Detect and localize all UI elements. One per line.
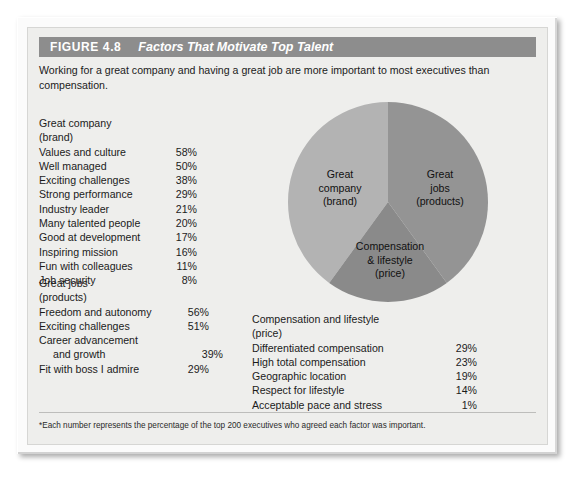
figure-panel: FIGURE 4.8 Factors That Motivate Top Tal… <box>27 27 548 445</box>
item-value: 20% <box>167 216 197 230</box>
list-item: Acceptable pace and stress1% <box>252 398 542 412</box>
item-value: 51% <box>179 319 209 333</box>
figure-footnote: *Each number represents the percentage o… <box>39 420 519 431</box>
item-label: Well managed <box>39 159 167 173</box>
item-label: Freedom and autonomy <box>39 305 179 319</box>
item-label: Many talented people <box>39 216 167 230</box>
item-label: Good at development <box>39 230 167 244</box>
item-value: 50% <box>167 159 197 173</box>
list-item: Geographic location19% <box>252 369 542 383</box>
item-value: 17% <box>167 230 197 244</box>
list-item: Exciting challenges51% <box>39 319 244 333</box>
figure-number: FIGURE 4.8 <box>50 40 121 54</box>
pie-label-line: Compensation <box>338 240 442 254</box>
list-item: Strong performance29% <box>39 187 224 201</box>
figure-frame: FIGURE 4.8 Factors That Motivate Top Tal… <box>17 17 557 454</box>
item-label: Fun with colleagues <box>39 259 167 273</box>
list-item: Many talented people20% <box>39 216 224 230</box>
item-value: 56% <box>179 305 209 319</box>
list-heading-line1: Great company <box>39 116 224 130</box>
item-value: 19% <box>447 369 477 383</box>
item-value: 16% <box>167 245 197 259</box>
list-great-jobs: Great jobs (products) Freedom and autono… <box>39 276 244 376</box>
list-heading-line2: (products) <box>39 290 244 304</box>
item-value: 14% <box>447 383 477 397</box>
item-value <box>179 333 209 347</box>
pie-label-line: & lifestyle <box>338 254 442 268</box>
pie-label-line: jobs <box>394 182 486 196</box>
list-item: Well managed50% <box>39 159 224 173</box>
footnote-divider <box>39 412 536 413</box>
list-item: High total compensation23% <box>252 355 542 369</box>
item-label: Acceptable pace and stress <box>252 398 447 412</box>
pie-label-line: company <box>294 182 386 196</box>
pie-label-line: (price) <box>338 267 442 281</box>
item-value: 11% <box>167 259 197 273</box>
item-label: Exciting challenges <box>39 173 167 187</box>
pie-label-line: (brand) <box>294 195 386 209</box>
item-value: 1% <box>447 398 477 412</box>
pie-label-line: Great <box>394 168 486 182</box>
list-item: and growth39% <box>39 347 244 361</box>
list-item: Good at development17% <box>39 230 224 244</box>
list-heading-line2: (price) <box>252 326 542 340</box>
list-compensation: Compensation and lifestyle (price) Diffe… <box>252 312 542 412</box>
pie-label-great-company: Great company (brand) <box>294 168 386 209</box>
list-rows: Differentiated compensation29% High tota… <box>252 341 542 412</box>
item-value: 29% <box>447 341 477 355</box>
item-value: 29% <box>167 187 197 201</box>
item-label: Strong performance <box>39 187 167 201</box>
list-item: Values and culture58% <box>39 145 224 159</box>
list-great-company: Great company (brand) Values and culture… <box>39 116 224 288</box>
item-value: 29% <box>179 362 209 376</box>
item-label: Geographic location <box>252 369 447 383</box>
item-label: Respect for lifestyle <box>252 383 447 397</box>
list-heading-line1: Great jobs <box>39 276 244 290</box>
list-item: Fit with boss I admire29% <box>39 362 244 376</box>
list-item: Fun with colleagues11% <box>39 259 224 273</box>
item-label: Exciting challenges <box>39 319 179 333</box>
list-item: Respect for lifestyle14% <box>252 383 542 397</box>
list-item: Industry leader21% <box>39 202 224 216</box>
item-label: Values and culture <box>39 145 167 159</box>
pie-label-great-jobs: Great jobs (products) <box>394 168 486 209</box>
item-label: and growth <box>39 347 193 361</box>
list-heading-line2: (brand) <box>39 130 224 144</box>
item-label: Industry leader <box>39 202 167 216</box>
list-item: Differentiated compensation29% <box>252 341 542 355</box>
item-value: 38% <box>167 173 197 187</box>
figure-title-bar: FIGURE 4.8 Factors That Motivate Top Tal… <box>39 37 536 57</box>
list-item: Career advancement <box>39 333 244 347</box>
item-label: Fit with boss I admire <box>39 362 179 376</box>
item-label: High total compensation <box>252 355 447 369</box>
item-label: Career advancement <box>39 333 179 347</box>
pie-label-line: (products) <box>394 195 486 209</box>
item-value: 39% <box>193 347 223 361</box>
list-rows: Freedom and autonomy56% Exciting challen… <box>39 305 244 376</box>
item-label: Inspiring mission <box>39 245 167 259</box>
list-item: Exciting challenges38% <box>39 173 224 187</box>
item-value: 58% <box>167 145 197 159</box>
pie-label-line: Great <box>294 168 386 182</box>
item-value: 21% <box>167 202 197 216</box>
item-label: Differentiated compensation <box>252 341 447 355</box>
list-item: Inspiring mission16% <box>39 245 224 259</box>
list-heading-line1: Compensation and lifestyle <box>252 312 542 326</box>
list-rows: Values and culture58% Well managed50% Ex… <box>39 145 224 288</box>
pie-label-compensation: Compensation & lifestyle (price) <box>338 240 442 281</box>
pie-chart: Great company (brand) Great jobs (produc… <box>286 100 490 304</box>
figure-title: Factors That Motivate Top Talent <box>138 40 333 54</box>
figure-intro-text: Working for a great company and having a… <box>39 63 504 92</box>
item-value: 23% <box>447 355 477 369</box>
list-item: Freedom and autonomy56% <box>39 305 244 319</box>
